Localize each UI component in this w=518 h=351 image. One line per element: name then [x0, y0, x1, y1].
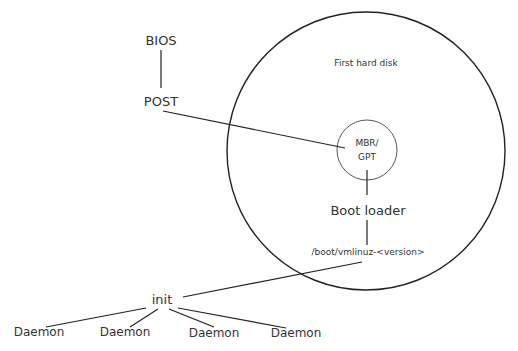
daemon-label-4: Daemon [271, 326, 322, 340]
init-label: init [152, 292, 173, 307]
daemon-label-3: Daemon [189, 326, 240, 340]
init-daemon4-connector [178, 308, 286, 328]
hard-disk-label: First hard disk [334, 58, 397, 68]
kernel-init-connector [183, 262, 362, 297]
bootloader-label: Boot loader [330, 203, 405, 218]
mbr-label: MBR/ [355, 138, 378, 148]
post-label: POST [144, 94, 178, 109]
init-daemon3-connector [169, 309, 214, 327]
post-mbr-connector [163, 111, 345, 148]
daemon-label-1: Daemon [14, 325, 65, 339]
daemon-label-2: Daemon [100, 325, 151, 339]
bios-label: BIOS [145, 33, 176, 48]
kernel-label: /boot/vmlinuz-<version> [312, 247, 425, 257]
gpt-label: GPT [358, 152, 376, 162]
diagram-canvas [0, 0, 518, 351]
